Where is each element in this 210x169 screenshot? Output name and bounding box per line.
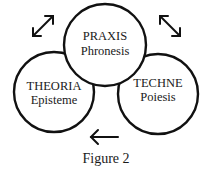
node-praxis: PRAXIS Phronesis bbox=[64, 4, 146, 86]
theoria-title: THEORIA bbox=[27, 79, 82, 93]
techne-subtitle: Poiesis bbox=[140, 90, 176, 104]
praxis-title: PRAXIS bbox=[83, 29, 128, 43]
triad-diagram: THEORIA Episteme TECHNE Poiesis PRAXIS P… bbox=[0, 0, 210, 169]
praxis-subtitle: Phronesis bbox=[81, 44, 130, 58]
double-arrow-top-left-icon bbox=[33, 16, 53, 36]
double-arrow-top-right-icon bbox=[160, 16, 180, 36]
theoria-subtitle: Episteme bbox=[31, 93, 78, 107]
techne-title: TECHNE bbox=[133, 76, 183, 90]
arrow-left-icon bbox=[91, 130, 118, 144]
figure-caption: Figure 2 bbox=[82, 151, 129, 166]
